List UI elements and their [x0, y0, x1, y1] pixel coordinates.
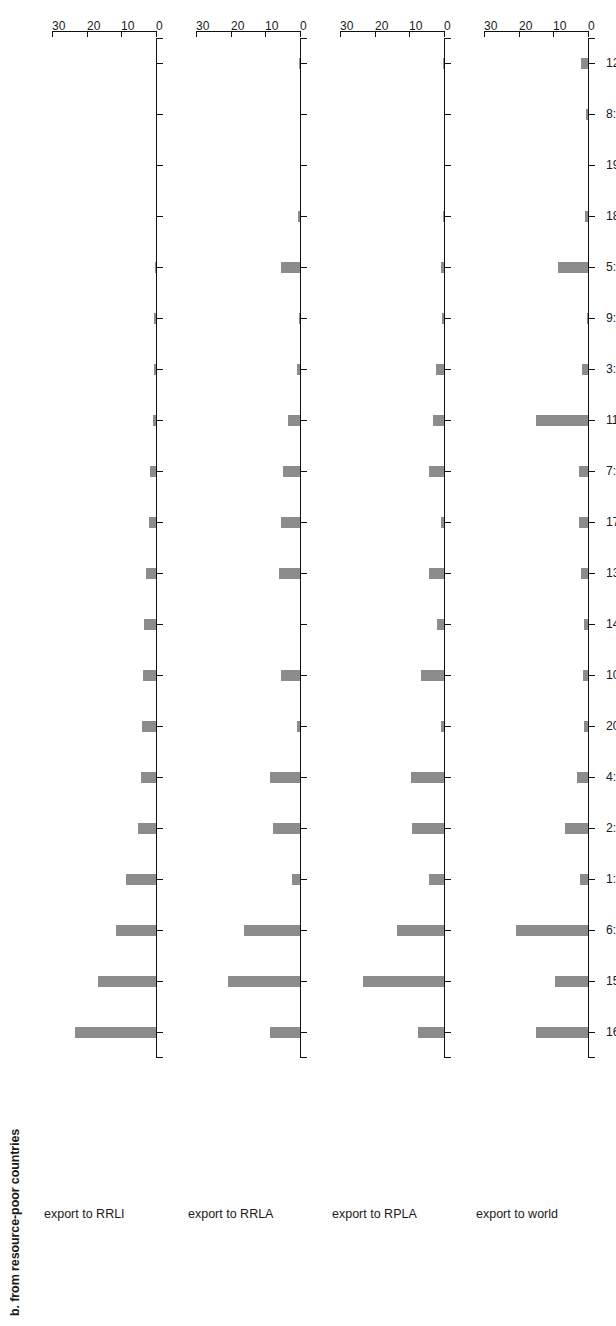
category-tick-cell: [588, 548, 595, 599]
category-tick: [300, 930, 307, 931]
category-tick: [588, 267, 595, 268]
category-tick-cell: [444, 293, 451, 344]
panel-export-to-rrla: export to RRLA0102030: [182, 0, 316, 1326]
bar-cell: [340, 446, 444, 497]
bar: [244, 925, 300, 936]
category-tick: [588, 165, 595, 166]
category-label: 2: Vegetable products: [606, 822, 616, 834]
bar-cell: [196, 548, 300, 599]
bar-cell: [52, 905, 156, 956]
bar-cell: [484, 1007, 588, 1058]
bar-cell: [484, 854, 588, 905]
bar: [126, 874, 156, 885]
value-tick-label: 30: [484, 19, 497, 33]
bar-cell: [340, 548, 444, 599]
bar-cell: [340, 89, 444, 140]
category-tick: [156, 726, 163, 727]
category-tick-group: [444, 38, 451, 1058]
bar-group: [196, 38, 300, 1058]
category-tick-cell: [588, 38, 595, 89]
category-tick: [300, 267, 307, 268]
category-tick: [444, 930, 451, 931]
bar-cell: [196, 293, 300, 344]
bar-cell: [196, 1007, 300, 1058]
bar-cell: [340, 803, 444, 854]
bar-cell: [52, 548, 156, 599]
bar: [116, 925, 156, 936]
bar: [429, 568, 444, 579]
bar: [281, 262, 300, 273]
bar: [281, 517, 300, 528]
category-tick: [444, 267, 451, 268]
category-tick: [444, 522, 451, 523]
bar-cell: [196, 752, 300, 803]
category-tick-cell: [444, 344, 451, 395]
bar: [565, 823, 588, 834]
bar: [421, 670, 444, 681]
panel-label: export to RRLI: [44, 1207, 125, 1221]
bar: [292, 874, 300, 885]
bar-cell: [196, 38, 300, 89]
category-tick-cell: [588, 446, 595, 497]
bar-cell: [340, 242, 444, 293]
category-tick: [444, 216, 451, 217]
category-tick-cell: [444, 599, 451, 650]
category-tick-cell: [156, 599, 163, 650]
category-label: 6: Chemical products: [606, 924, 616, 936]
value-tick-label: 30: [52, 19, 65, 33]
bar-cell: [340, 650, 444, 701]
plot-area: [52, 38, 156, 1058]
category-label: 18: Optical and medical instruments: [606, 210, 616, 222]
bar: [581, 58, 588, 69]
bar-cell: [196, 650, 300, 701]
category-tick-cell: [156, 344, 163, 395]
category-tick: [300, 216, 307, 217]
category-tick: [156, 522, 163, 523]
bar-cell: [196, 191, 300, 242]
value-tick-label: 0: [300, 19, 307, 33]
category-label: 13: Stone and cement: [606, 567, 616, 579]
category-tick: [300, 63, 307, 64]
category-tick: [588, 369, 595, 370]
bar: [555, 976, 588, 987]
category-tick: [156, 420, 163, 421]
bar: [436, 364, 444, 375]
bar-cell: [52, 89, 156, 140]
category-tick-group: [156, 38, 163, 1058]
category-tick: [156, 369, 163, 370]
category-tick-cell: [444, 140, 451, 191]
category-tick: [588, 318, 595, 319]
bar-cell: [484, 803, 588, 854]
bar: [146, 568, 156, 579]
bar-cell: [52, 701, 156, 752]
category-tick-cell: [300, 599, 307, 650]
bar: [279, 568, 300, 579]
bar-cell: [196, 344, 300, 395]
category-tick-cell: [588, 803, 595, 854]
bar-cell: [340, 140, 444, 191]
category-tick: [300, 114, 307, 115]
bar: [98, 976, 156, 987]
category-tick: [588, 522, 595, 523]
category-tick-cell: [300, 140, 307, 191]
category-tick: [444, 777, 451, 778]
category-tick-cell: [444, 956, 451, 1007]
bar-cell: [340, 395, 444, 446]
category-tick-cell: [444, 395, 451, 446]
value-tick-label: 20: [231, 19, 244, 33]
category-tick-cell: [300, 38, 307, 89]
category-tick: [300, 318, 307, 319]
category-tick: [588, 114, 595, 115]
bar: [577, 772, 588, 783]
value-tick-label: 20: [519, 19, 532, 33]
bar-cell: [52, 803, 156, 854]
bar-cell: [196, 446, 300, 497]
category-tick-cell: [444, 650, 451, 701]
category-tick: [444, 726, 451, 727]
category-tick-cell: [300, 548, 307, 599]
value-tick-label: 10: [265, 19, 278, 33]
bar-cell: [196, 242, 300, 293]
category-tick: [300, 675, 307, 676]
bar-cell: [484, 140, 588, 191]
bar-cell: [196, 701, 300, 752]
